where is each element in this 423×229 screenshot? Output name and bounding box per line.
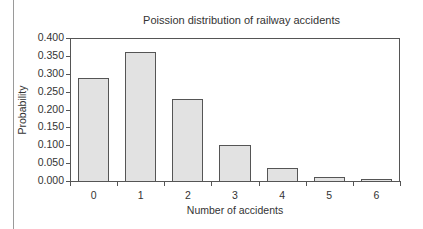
y-tick-mark: [66, 56, 70, 57]
x-tick-label: 5: [319, 189, 339, 201]
y-axis: [70, 38, 71, 182]
x-tick-label: 3: [225, 189, 245, 201]
y-tick-mark: [66, 92, 70, 93]
bar-1: [125, 52, 156, 182]
x-tick-mark: [117, 182, 118, 186]
x-tick-mark: [353, 182, 354, 186]
x-tick-label: 6: [366, 189, 386, 201]
y-tick-label: 0.400: [20, 31, 64, 43]
page-margin-line: [13, 0, 14, 229]
y-tick-label: 0.350: [20, 49, 64, 61]
x-axis-label: Number of accidents: [70, 204, 400, 216]
x-tick-mark: [70, 182, 71, 186]
y-tick-mark: [66, 110, 70, 111]
bar-2: [172, 99, 203, 182]
y-tick-mark: [66, 145, 70, 146]
x-tick-label: 0: [84, 189, 104, 201]
x-tick-mark: [400, 182, 401, 186]
x-tick-label: 1: [131, 189, 151, 201]
y-tick-label: 0.050: [20, 156, 64, 168]
y-tick-label: 0.300: [20, 67, 64, 79]
y-axis-label: Probability: [16, 85, 28, 134]
x-tick-mark: [306, 182, 307, 186]
bar-4: [267, 168, 298, 182]
bar-6: [361, 179, 392, 182]
y-tick-mark: [66, 74, 70, 75]
bar-3: [219, 145, 250, 182]
x-tick-mark: [211, 182, 212, 186]
x-tick-mark: [259, 182, 260, 186]
x-tick-label: 2: [178, 189, 198, 201]
bar-5: [314, 177, 345, 182]
bar-0: [78, 78, 109, 182]
x-tick-label: 4: [272, 189, 292, 201]
y-tick-mark: [66, 127, 70, 128]
y-tick-mark: [66, 38, 70, 39]
chart-title: Poission distribution of railway acciden…: [0, 14, 423, 26]
y-tick-mark: [66, 163, 70, 164]
y-tick-label: 0.000: [20, 174, 64, 186]
y-tick-label: 0.100: [20, 138, 64, 150]
x-tick-mark: [164, 182, 165, 186]
